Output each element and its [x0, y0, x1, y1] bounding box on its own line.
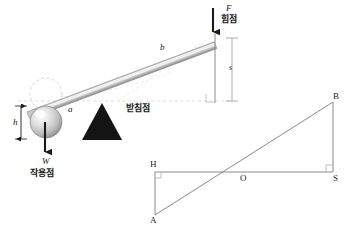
diagram-svg [0, 0, 353, 235]
sphere-highlight [35, 110, 46, 118]
force-point-korean-label: 힘점 [221, 15, 237, 24]
triangle-hypotenuse-AB [155, 102, 333, 215]
figure-canvas: F 힘점 s b a h 받침점 W 작용점 H A O S B [0, 0, 353, 235]
drop-symbol-label: s [229, 64, 232, 72]
fulcrum-triangle [82, 103, 122, 140]
weight-symbol-label: W [42, 157, 50, 166]
vertex-label-S: S [333, 174, 338, 183]
vertex-label-A: A [150, 216, 157, 225]
height-symbol-label: h [13, 118, 18, 127]
vertex-label-O: O [240, 174, 247, 183]
action-point-korean-label: 작용점 [30, 169, 54, 178]
fulcrum-korean-label: 받침점 [126, 104, 150, 113]
arm-far-symbol-label: b [160, 43, 165, 52]
right-angle-mark-H [155, 172, 161, 178]
force-symbol-label: F [226, 4, 232, 13]
vertex-label-H: H [150, 160, 157, 169]
arm-near-symbol-label: a [68, 105, 73, 114]
right-angle-mark-S [326, 165, 333, 172]
vertex-label-B: B [333, 92, 339, 101]
lever-beam [33, 42, 217, 117]
